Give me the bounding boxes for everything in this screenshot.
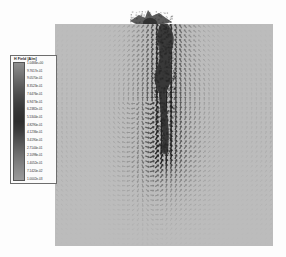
legend-tick-label: 5.5344e-01 bbox=[27, 116, 55, 119]
legend-tick-label: 1.0002e-03 bbox=[27, 178, 55, 181]
legend-tick-label: 6.2382e-01 bbox=[27, 108, 55, 111]
vector-field-domain bbox=[55, 24, 273, 246]
legend-tick-label: 9.0570e-01 bbox=[27, 77, 55, 80]
colorbar-legend: H Field [A/m] 1.0466e+009.7617e-019.0570… bbox=[10, 55, 57, 184]
legend-tick-label: 1.4052e-01 bbox=[27, 162, 55, 165]
legend-tick-label: 9.7617e-01 bbox=[27, 70, 55, 73]
legend-tick-label: 8.3523e-01 bbox=[27, 85, 55, 88]
vector-field-plot: H Field [A/m] 1.0466e+009.7617e-019.0570… bbox=[0, 0, 286, 257]
legend-tick-label: 4.8290e-01 bbox=[27, 124, 55, 127]
legend-body: 1.0466e+009.7617e-019.0570e-018.3523e-01… bbox=[13, 62, 55, 181]
legend-tick-label: 7.6476e-01 bbox=[27, 93, 55, 96]
legend-tick-labels: 1.0466e+009.7617e-019.0570e-018.3523e-01… bbox=[25, 62, 55, 181]
legend-tick-label: 2.1098e-01 bbox=[27, 154, 55, 157]
legend-tick-label: 7.1420e-02 bbox=[27, 170, 55, 173]
legend-tick-label: 4.1236e-01 bbox=[27, 131, 55, 134]
legend-tick-label: 6.9473e-01 bbox=[27, 101, 55, 104]
legend-tick-label: 1.0466e+00 bbox=[27, 62, 55, 65]
colorbar-gradient bbox=[13, 62, 25, 181]
legend-tick-label: 3.4190e-01 bbox=[27, 139, 55, 142]
legend-tick-label: 2.7144e-01 bbox=[27, 147, 55, 150]
